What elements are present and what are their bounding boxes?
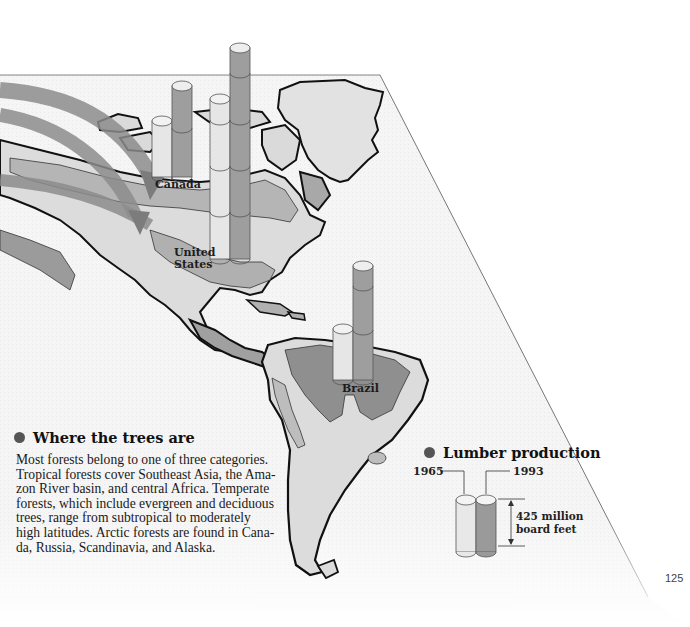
bullet-icon: [424, 447, 435, 458]
body-line: zon River basin, and central Africa. Tem…: [16, 482, 291, 497]
cylinder-brazil-1993: [353, 261, 373, 385]
body-line: Most forests belong to one of three cate…: [16, 453, 291, 468]
legend-unit-line2: board feet: [516, 523, 576, 535]
body-line: high latitudes. Arctic forests are found…: [16, 526, 291, 541]
forest-patch: [368, 452, 386, 464]
legend-year-1965: 1965: [413, 465, 444, 478]
body-line: da, Russia, Scandinavia, and Alaska.: [16, 541, 291, 556]
where-trees-title: Where the trees are: [14, 429, 195, 446]
cylinder-canada-1993: [172, 81, 192, 182]
cylinder-us-1993: [230, 43, 250, 264]
legend-title: Lumber production: [424, 444, 601, 461]
map-label-states: States: [174, 259, 212, 271]
infographic-page: Canada United States Brazil Where the tr…: [0, 0, 690, 627]
legend-unit-line1: 425 million: [516, 510, 583, 522]
legend-title-text: Lumber production: [443, 444, 601, 461]
where-trees-title-text: Where the trees are: [33, 429, 195, 446]
body-line: forests, which include evergreen and dec…: [16, 497, 291, 512]
legend-year-1993: 1993: [513, 465, 544, 478]
cylinder-us-1965: [210, 94, 230, 264]
where-trees-body: Most forests belong to one of three cate…: [16, 453, 291, 555]
body-line: Tropical forests cover Southeast Asia, t…: [16, 468, 291, 483]
body-line: trees, range from subtropical to moderat…: [16, 511, 291, 526]
cylinder-canada-1965: [152, 116, 172, 182]
page-number: 125: [665, 572, 683, 584]
map-label-canada: Canada: [155, 179, 201, 191]
cylinder-brazil-1965: [333, 324, 353, 385]
map-label-brazil: Brazil: [342, 383, 379, 395]
bullet-icon: [14, 432, 25, 443]
